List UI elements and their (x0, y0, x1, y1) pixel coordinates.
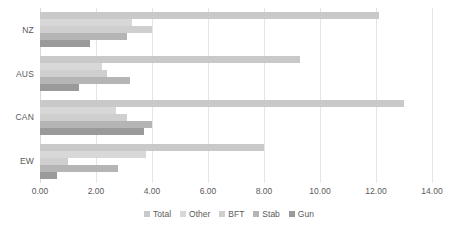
bar-row (40, 100, 432, 107)
x-tick-label-2.00: 2.00 (88, 186, 105, 196)
bar-row (40, 77, 432, 84)
chart-legend: TotalOtherBFTStabGun (0, 209, 458, 219)
category-label-nz: NZ (0, 25, 34, 35)
legend-item-bft[interactable]: BFT (219, 209, 244, 219)
bar-row (40, 114, 432, 121)
legend-label-bft: BFT (228, 209, 244, 219)
bar-row (40, 26, 432, 33)
legend-swatch-bft-icon (219, 211, 225, 217)
bar-ew-bft[interactable] (40, 158, 68, 165)
legend-swatch-gun-icon (289, 211, 295, 217)
bar-row (40, 63, 432, 70)
category-label-aus: AUS (0, 69, 34, 79)
category-label-can: CAN (0, 112, 34, 122)
legend-item-gun[interactable]: Gun (289, 209, 314, 219)
x-tick-label-14.00: 14.00 (421, 186, 442, 196)
legend-item-other[interactable]: Other (180, 209, 210, 219)
bar-row (40, 33, 432, 40)
bar-can-other[interactable] (40, 107, 116, 114)
bar-row (40, 107, 432, 114)
bar-row (40, 158, 432, 165)
bar-row (40, 165, 432, 172)
bar-aus-gun[interactable] (40, 84, 79, 91)
x-tick-label-8.00: 8.00 (256, 186, 273, 196)
plot-area (40, 8, 432, 183)
bar-aus-other[interactable] (40, 63, 102, 70)
legend-swatch-stab-icon (253, 211, 259, 217)
bar-chart: NZAUSCANEW 0.002.004.006.008.0010.0012.0… (0, 0, 458, 233)
gridline-14.00 (432, 8, 433, 183)
bar-can-total[interactable] (40, 100, 404, 107)
bar-row (40, 151, 432, 158)
legend-item-stab[interactable]: Stab (253, 209, 280, 219)
bar-aus-total[interactable] (40, 56, 300, 63)
bar-nz-gun[interactable] (40, 40, 90, 47)
bar-ew-stab[interactable] (40, 165, 118, 172)
legend-label-gun: Gun (298, 209, 314, 219)
bar-group-can (40, 100, 432, 135)
x-tick-label-12.00: 12.00 (365, 186, 386, 196)
bar-group-aus (40, 56, 432, 91)
category-label-ew: EW (0, 156, 34, 166)
bar-row (40, 19, 432, 26)
bar-can-bft[interactable] (40, 114, 127, 121)
bar-row (40, 121, 432, 128)
bar-group-ew (40, 144, 432, 179)
bar-ew-other[interactable] (40, 151, 146, 158)
legend-label-total: Total (153, 209, 171, 219)
bar-aus-bft[interactable] (40, 70, 107, 77)
bar-row (40, 128, 432, 135)
bar-ew-gun[interactable] (40, 172, 57, 179)
bar-group-nz (40, 12, 432, 47)
legend-swatch-other-icon (180, 211, 186, 217)
x-tick-label-0.00: 0.00 (32, 186, 49, 196)
bar-row (40, 84, 432, 91)
legend-label-stab: Stab (262, 209, 280, 219)
bar-row (40, 12, 432, 19)
bar-row (40, 144, 432, 151)
legend-item-total[interactable]: Total (144, 209, 171, 219)
bar-row (40, 40, 432, 47)
bar-aus-stab[interactable] (40, 77, 130, 84)
bar-nz-other[interactable] (40, 19, 132, 26)
bar-row (40, 56, 432, 63)
x-tick-label-6.00: 6.00 (200, 186, 217, 196)
bar-row (40, 70, 432, 77)
legend-label-other: Other (189, 209, 210, 219)
bar-row (40, 172, 432, 179)
bar-nz-total[interactable] (40, 12, 379, 19)
bar-nz-bft[interactable] (40, 26, 152, 33)
bar-can-stab[interactable] (40, 121, 152, 128)
bar-can-gun[interactable] (40, 128, 144, 135)
x-axis-tick-labels: 0.002.004.006.008.0010.0012.0014.00 (40, 186, 432, 198)
bar-ew-total[interactable] (40, 144, 264, 151)
legend-swatch-total-icon (144, 211, 150, 217)
x-tick-label-10.00: 10.00 (309, 186, 330, 196)
bar-nz-stab[interactable] (40, 33, 127, 40)
x-tick-label-4.00: 4.00 (144, 186, 161, 196)
